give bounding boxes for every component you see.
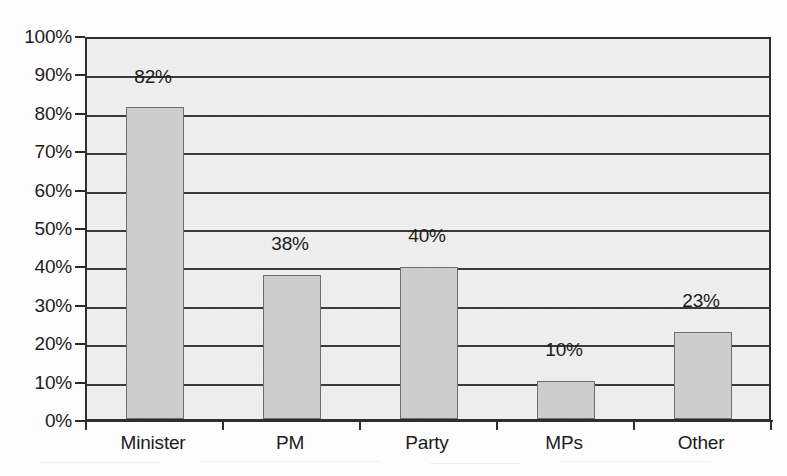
x-category-label-mps: MPs (545, 432, 582, 454)
gridline-70 (87, 153, 769, 155)
y-tick-mark-70 (75, 151, 85, 153)
bar-other[interactable] (674, 332, 732, 419)
bar-label-mps: 10% (545, 339, 582, 361)
x-category-label-party: Party (405, 432, 448, 454)
y-tick-mark-100 (75, 36, 85, 38)
scan-artifact (430, 463, 520, 464)
y-tick-mark-50 (75, 228, 85, 230)
gridline-90 (87, 76, 769, 78)
bar-party[interactable] (400, 267, 458, 419)
y-tick-label-70: 70% (35, 141, 72, 163)
x-tick-mark-2 (359, 421, 361, 430)
bar-label-pm: 38% (271, 233, 308, 255)
y-tick-label-40: 40% (35, 256, 72, 278)
y-tick-mark-40 (75, 266, 85, 268)
y-tick-mark-20 (75, 343, 85, 345)
scan-artifact (560, 461, 710, 462)
x-tick-mark-5 (770, 421, 772, 430)
y-tick-mark-30 (75, 305, 85, 307)
x-tick-mark-4 (633, 421, 635, 430)
y-tick-label-100: 100% (24, 26, 72, 48)
bar-mps[interactable] (537, 381, 595, 419)
gridline-60 (87, 192, 769, 194)
y-tick-label-0: 0% (45, 410, 72, 432)
scan-artifact (200, 461, 380, 462)
y-tick-label-50: 50% (35, 218, 72, 240)
bar-chart: 100% 90% 80% 70% 60% 50% 40% 30% 20% 10%… (0, 0, 787, 476)
x-tick-mark-0 (85, 421, 87, 430)
y-tick-label-10: 10% (35, 372, 72, 394)
gridline-80 (87, 115, 769, 117)
x-category-label-minister: Minister (121, 432, 186, 454)
y-tick-mark-90 (75, 74, 85, 76)
x-tick-mark-3 (496, 421, 498, 430)
bar-label-minister: 82% (134, 66, 171, 88)
y-tick-mark-0 (75, 420, 85, 422)
x-category-label-pm: PM (276, 432, 304, 454)
y-axis: 100% 90% 80% 70% 60% 50% 40% 30% 20% 10%… (0, 0, 76, 476)
x-category-label-other: Other (678, 432, 725, 454)
x-tick-mark-1 (222, 421, 224, 430)
bar-label-other: 23% (682, 290, 719, 312)
y-tick-mark-10 (75, 382, 85, 384)
bar-pm[interactable] (263, 275, 321, 419)
x-axis-line (85, 420, 773, 422)
bar-minister[interactable] (126, 107, 184, 419)
y-tick-mark-60 (75, 190, 85, 192)
y-tick-label-30: 30% (35, 295, 72, 317)
y-tick-label-80: 80% (35, 103, 72, 125)
y-tick-label-20: 20% (35, 333, 72, 355)
y-tick-mark-80 (75, 113, 85, 115)
scan-artifact (40, 462, 160, 463)
bar-label-party: 40% (408, 225, 445, 247)
y-tick-label-90: 90% (35, 64, 72, 86)
y-tick-label-60: 60% (35, 180, 72, 202)
